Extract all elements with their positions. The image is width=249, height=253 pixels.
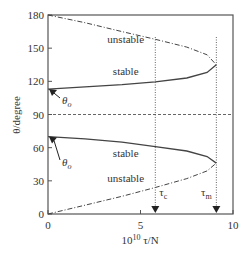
y-tick-label: 90	[33, 109, 45, 121]
arrow-head-icon	[49, 137, 57, 144]
region-label: unstable	[107, 172, 144, 184]
y-tick-label: 150	[28, 42, 45, 54]
stability-chart: 03060901201501800510θ/degree1010 τ/Nunst…	[0, 0, 249, 253]
curve-lower-unstable	[48, 163, 216, 214]
x-tick-label: 5	[138, 219, 144, 231]
theta-o-label: θo	[62, 94, 71, 109]
y-axis-label: θ/degree	[10, 96, 22, 134]
x-tick-label: 0	[45, 219, 51, 231]
y-tick-label: 180	[28, 9, 45, 21]
arrow-line	[54, 93, 60, 98]
x-axis-label: 1010 τ/N	[121, 233, 158, 246]
x-tick-label: 10	[228, 219, 240, 231]
down-triangle-icon	[212, 206, 220, 213]
region-label: stable	[113, 65, 139, 77]
tau-label: τc	[159, 186, 167, 201]
tau-label: τm	[201, 186, 212, 201]
region-label: unstable	[107, 33, 144, 45]
y-tick-label: 0	[39, 208, 45, 220]
region-label: stable	[113, 147, 139, 159]
y-tick-label: 30	[33, 175, 45, 187]
arrow-line	[54, 141, 60, 160]
y-tick-label: 60	[33, 142, 45, 154]
plot-area	[48, 15, 233, 214]
chart-labels: 03060901201501800510θ/degree1010 τ/Nunst…	[10, 9, 239, 246]
theta-o-label: θo	[62, 156, 71, 171]
y-tick-label: 120	[28, 75, 45, 87]
down-triangle-icon	[151, 206, 159, 213]
